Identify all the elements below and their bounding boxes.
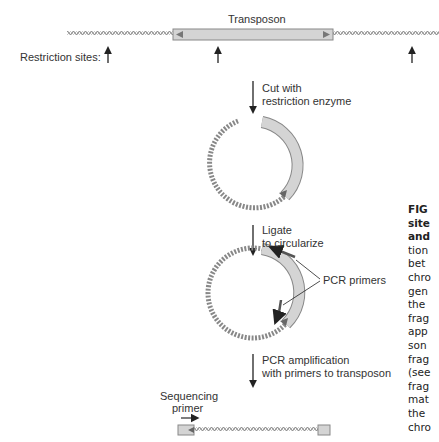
caption-line: app xyxy=(408,325,439,339)
caption-line: (see xyxy=(408,366,439,380)
caption-line: son xyxy=(408,339,439,353)
ligated-circle xyxy=(208,248,320,338)
caption-line: and xyxy=(408,230,439,244)
transposon-label: Transposon xyxy=(228,13,286,26)
chromosome-with-transposon xyxy=(67,29,439,40)
step-2-line-1: Ligate xyxy=(262,224,292,237)
caption-line: bet xyxy=(408,257,439,271)
caption-line: mat xyxy=(408,393,439,407)
caption-line: the xyxy=(408,298,439,312)
caption-line: tion xyxy=(408,244,439,258)
pcr-primers-label: PCR primers xyxy=(323,274,386,287)
caption-line: frag xyxy=(408,380,439,394)
pcr-product xyxy=(178,418,330,435)
caption-line: chro xyxy=(408,421,439,435)
caption-line: FIG xyxy=(408,203,439,217)
caption-line: frag xyxy=(408,353,439,367)
step-3-line-2: with primers to transposon xyxy=(262,367,391,380)
caption-line: gen xyxy=(408,285,439,299)
caption-line: site xyxy=(408,217,439,231)
pcr-primer-arrow-2 xyxy=(277,300,281,318)
step-1-line-1: Cut with xyxy=(262,82,302,95)
caption-line: frag xyxy=(408,312,439,326)
caption-line: the xyxy=(408,407,439,421)
cut-fragment-circle xyxy=(210,121,298,208)
sequencing-primer-label-2: primer xyxy=(172,402,203,415)
step-2-line-2: to circularize xyxy=(262,237,324,250)
step-1-line-2: restriction enzyme xyxy=(262,95,351,108)
step-3-line-1: PCR amplification xyxy=(262,354,349,367)
restriction-site-arrows xyxy=(108,50,412,63)
restriction-sites-label: Restriction sites: xyxy=(20,51,101,64)
figure-caption: FIG site and tion bet chro gen the frag … xyxy=(408,203,439,434)
caption-line: chro xyxy=(408,271,439,285)
